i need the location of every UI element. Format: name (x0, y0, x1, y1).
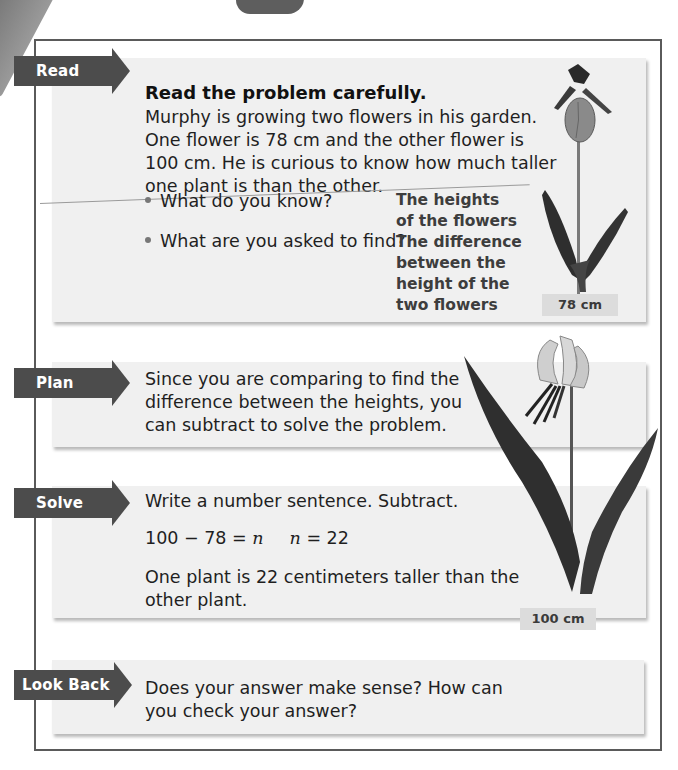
equation-variable: n (252, 528, 263, 548)
small-flower-height-label: 78 cm (542, 294, 618, 316)
look-back-body-line: Does your answer make sense? How can (145, 677, 525, 700)
equation-lhs: 100 − 78 = (145, 528, 252, 548)
look-back-body-line: you check your answer? (145, 700, 525, 723)
read-body-line: 100 cm. He is curious to know how much t… (145, 152, 565, 175)
page-top-decoration (236, 0, 304, 14)
read-step-arrow: Read (14, 56, 112, 86)
answer-find: The difference between the height of the… (396, 232, 526, 316)
plan-step-arrow: Plan (14, 368, 112, 398)
answer-line: of the flowers (396, 211, 526, 232)
look-back-step-arrow: Look Back (14, 670, 114, 700)
read-body: Murphy is growing two flowers in his gar… (145, 106, 565, 198)
answer-know: The heights of the flowers (396, 190, 526, 232)
look-back-step-label: Look Back (22, 676, 110, 694)
plan-body-line: difference between the heights, you (145, 391, 505, 414)
question-know: What do you know? (145, 190, 332, 213)
trout-lily-flower-image (462, 332, 662, 610)
solve-step-arrow: Solve (14, 488, 112, 518)
plan-step-label: Plan (36, 374, 74, 392)
answer-line: two flowers (396, 295, 526, 316)
tall-flower-height-label: 100 cm (520, 608, 596, 630)
equation-rhs: = 22 (301, 528, 349, 548)
answer-line: The heights (396, 190, 526, 211)
lady-slipper-flower-image (520, 60, 630, 300)
plan-body-line: Since you are comparing to find the (145, 368, 505, 391)
plan-body-line: can subtract to solve the problem. (145, 414, 505, 437)
plan-body: Since you are comparing to find the diff… (145, 368, 505, 437)
equation-variable: n (290, 528, 301, 548)
read-heading: Read the problem carefully. (145, 81, 426, 104)
solve-equation: 100 − 78 = nn = 22 (145, 527, 349, 550)
solve-step-label: Solve (36, 494, 83, 512)
answer-line: height of the (396, 274, 526, 295)
read-step-label: Read (36, 62, 79, 80)
read-body-line: Murphy is growing two flowers in his gar… (145, 106, 565, 129)
solve-instruction: Write a number sentence. Subtract. (145, 490, 458, 513)
question-find: What are you asked to find? (145, 230, 406, 253)
read-body-line: One flower is 78 cm and the other flower… (145, 129, 565, 152)
answer-line: between the (396, 253, 526, 274)
look-back-body: Does your answer make sense? How can you… (145, 677, 525, 723)
answer-line: The difference (396, 232, 526, 253)
